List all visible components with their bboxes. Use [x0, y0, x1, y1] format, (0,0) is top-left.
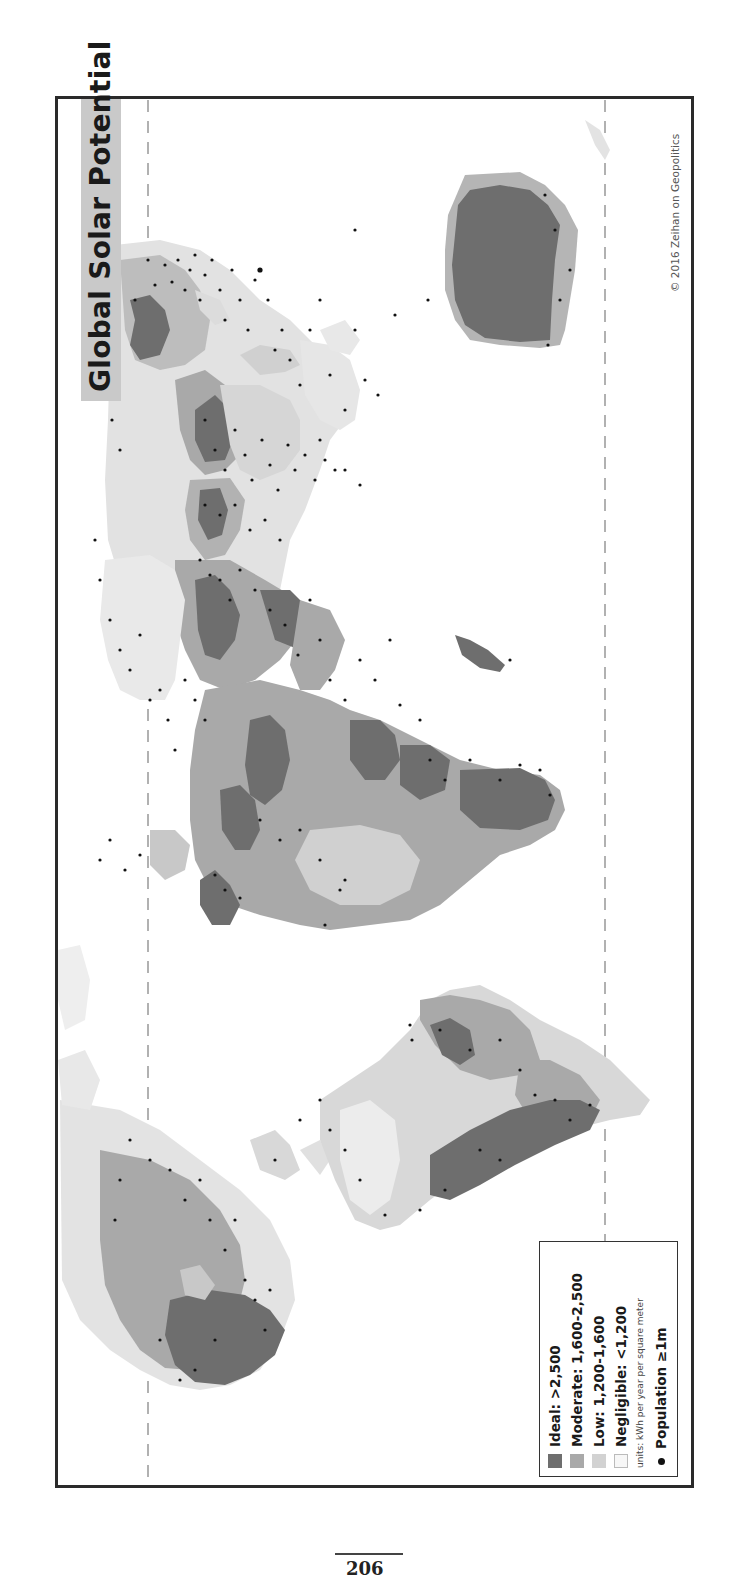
legend-label-negligible: Negligible: <1,200 [613, 1306, 629, 1447]
legend-item-ideal: Ideal: >2,500 [547, 1345, 563, 1468]
legend-units: units: kWh per year per square meter [635, 1298, 645, 1468]
map-title: Global Solar Potential [84, 40, 118, 392]
legend-label-ideal: Ideal: >2,500 [547, 1345, 563, 1447]
africa [190, 680, 565, 930]
swatch-negligible [614, 1454, 628, 1468]
copyright-notice: © 2016 Zeihan on Geopolitics [668, 134, 682, 292]
australia [445, 172, 578, 348]
asia [105, 240, 360, 605]
swatch-ideal [548, 1454, 562, 1468]
middle-east [175, 560, 345, 690]
population-dot-icon [658, 1458, 665, 1465]
legend-label-low: Low: 1,200-1,600 [591, 1316, 607, 1447]
legend-item-moderate: Moderate: 1,600-2,500 [569, 1273, 585, 1468]
page-number: 206 [346, 1560, 384, 1578]
legend-units-text: units: kWh per year per square meter [635, 1298, 645, 1468]
swatch-low [592, 1454, 606, 1468]
legend-label-moderate: Moderate: 1,600-2,500 [569, 1273, 585, 1447]
swatch-moderate [570, 1454, 584, 1468]
legend-item-population: Population ≥1m [653, 1327, 669, 1468]
legend-item-low: Low: 1,200-1,600 [591, 1316, 607, 1468]
legend-item-negligible: Negligible: <1,200 [613, 1306, 629, 1468]
europe [100, 555, 190, 880]
legend-label-population: Population ≥1m [653, 1327, 669, 1449]
south-america [320, 985, 650, 1230]
page-number-rule [335, 1553, 403, 1555]
